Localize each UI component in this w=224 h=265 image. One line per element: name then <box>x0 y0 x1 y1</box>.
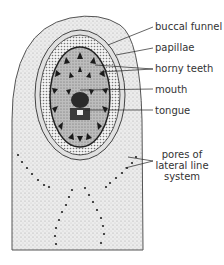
label-pores-line-3: system <box>152 171 212 182</box>
mouth <box>71 92 89 108</box>
label-pores-line-1: pores of <box>152 149 212 160</box>
label-horny-teeth: horny teeth <box>155 63 213 74</box>
label-mouth: mouth <box>155 84 187 95</box>
lamprey-diagram: buccal funnel papillae horny teeth mouth… <box>0 0 224 265</box>
illustration <box>0 0 224 265</box>
label-buccal-funnel: buccal funnel <box>155 21 222 32</box>
label-papillae: papillae <box>155 42 194 53</box>
label-pores: pores of lateral line system <box>152 149 212 182</box>
label-pores-line-2: lateral line <box>152 160 212 171</box>
label-tongue: tongue <box>155 105 190 116</box>
